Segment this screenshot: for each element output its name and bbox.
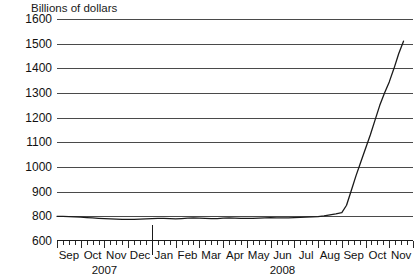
x-axis-major-tick (389, 241, 390, 248)
x-axis-minor-tick (348, 241, 349, 245)
x-axis-month-label: Jan (155, 249, 174, 261)
x-axis-month-label: Jun (273, 249, 292, 261)
x-axis-minor-tick (93, 241, 94, 245)
x-axis-major-tick (223, 241, 224, 248)
y-axis-tick-label: 800 (0, 210, 52, 222)
x-axis-minor-tick (259, 241, 260, 245)
x-axis-minor-tick (401, 241, 402, 245)
x-axis-major-tick (294, 241, 295, 248)
x-axis-minor-tick (371, 241, 372, 245)
x-axis-minor-tick (229, 241, 230, 245)
x-axis-minor-tick (69, 241, 70, 245)
x-axis-minor-tick (164, 241, 165, 245)
y-axis-tick-label: 900 (0, 186, 52, 198)
x-axis-minor-tick (288, 241, 289, 245)
x-axis-month-label: Nov (391, 249, 411, 261)
x-axis-major-tick (81, 241, 82, 248)
year-divider (152, 225, 153, 255)
x-axis-minor-tick (354, 241, 355, 245)
y-axis-labels: 1600150014001300120011001000900800600 (0, 0, 52, 278)
x-axis-major-tick (318, 241, 319, 248)
x-axis-minor-tick (235, 241, 236, 245)
y-axis-tick-label: 1500 (0, 38, 52, 50)
x-axis-minor-tick (277, 241, 278, 245)
plot-area (57, 19, 413, 241)
x-axis-minor-tick (158, 241, 159, 245)
x-axis-minor-tick (211, 241, 212, 245)
x-axis-major-tick (413, 241, 414, 248)
x-axis-minor-tick (140, 241, 141, 245)
x-axis-minor-tick (99, 241, 100, 245)
x-axis-minor-tick (205, 241, 206, 245)
x-axis-major-tick (366, 241, 367, 248)
x-axis-minor-tick (241, 241, 242, 245)
x-axis-minor-tick (306, 241, 307, 245)
x-axis-major-tick (128, 241, 129, 248)
x-axis-major-tick (342, 241, 343, 248)
y-axis-tick-label: 1000 (0, 161, 52, 173)
x-axis: SepOctNovDecJanFebMarAprMayJunJulAugSepO… (57, 241, 413, 278)
x-axis-major-tick (57, 241, 58, 248)
x-axis-minor-tick (330, 241, 331, 245)
x-axis-minor-tick (182, 241, 183, 245)
x-axis-minor-tick (336, 241, 337, 245)
x-axis-minor-tick (282, 241, 283, 245)
x-axis-minor-tick (217, 241, 218, 245)
x-axis-month-label: Oct (368, 249, 386, 261)
x-axis-year-label: 2008 (270, 264, 296, 276)
x-axis-month-label: Oct (84, 249, 102, 261)
x-axis-month-label: Aug (320, 249, 340, 261)
x-axis-minor-tick (87, 241, 88, 245)
x-axis-month-label: Sep (343, 249, 363, 261)
data-series-line (57, 19, 413, 241)
x-axis-month-label: Apr (226, 249, 244, 261)
y-axis-tick-label: 1100 (0, 136, 52, 148)
y-axis-tick-label: 1400 (0, 62, 52, 74)
y-axis-tick-label: 1200 (0, 112, 52, 124)
y-axis-tick-label: 600 (0, 235, 52, 247)
x-axis-major-tick (271, 241, 272, 248)
x-axis-month-label: May (248, 249, 270, 261)
x-axis-major-tick (247, 241, 248, 248)
x-axis-minor-tick (134, 241, 135, 245)
x-axis-year-label: 2007 (92, 264, 118, 276)
x-axis-month-label: Nov (106, 249, 126, 261)
chart-container: Billions of dollars 16001500140013001200… (0, 0, 418, 278)
x-axis-minor-tick (324, 241, 325, 245)
y-axis-tick-label: 1300 (0, 87, 52, 99)
x-axis-minor-tick (75, 241, 76, 245)
x-axis-major-tick (176, 241, 177, 248)
x-axis-minor-tick (146, 241, 147, 245)
x-axis-minor-tick (110, 241, 111, 245)
x-axis-minor-tick (407, 241, 408, 245)
x-axis-major-tick (104, 241, 105, 248)
x-axis-month-label: Sep (59, 249, 79, 261)
x-axis-month-label: Feb (178, 249, 198, 261)
x-axis-minor-tick (300, 241, 301, 245)
x-axis-minor-tick (170, 241, 171, 245)
x-axis-month-label: Mar (201, 249, 221, 261)
x-axis-month-label: Dec (130, 249, 150, 261)
y-axis-tick-label: 1600 (0, 13, 52, 25)
x-axis-major-tick (199, 241, 200, 248)
x-axis-minor-tick (122, 241, 123, 245)
x-axis-minor-tick (193, 241, 194, 245)
x-axis-minor-tick (63, 241, 64, 245)
x-axis-minor-tick (395, 241, 396, 245)
x-axis-minor-tick (383, 241, 384, 245)
x-axis-minor-tick (253, 241, 254, 245)
x-axis-minor-tick (265, 241, 266, 245)
x-axis-minor-tick (312, 241, 313, 245)
x-axis-minor-tick (377, 241, 378, 245)
x-axis-minor-tick (116, 241, 117, 245)
x-axis-minor-tick (360, 241, 361, 245)
x-axis-month-label: Jul (299, 249, 314, 261)
x-axis-minor-tick (188, 241, 189, 245)
